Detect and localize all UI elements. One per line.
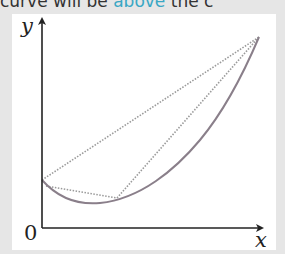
x-axis-label: x: [255, 228, 267, 252]
origin-label: 0: [24, 221, 37, 245]
convex-curve: [42, 37, 259, 203]
long-chord: [42, 37, 259, 180]
right-chord: [117, 37, 259, 198]
y-axis-label: y: [20, 14, 34, 38]
convex-function-diagram: y x 0: [0, 0, 285, 254]
